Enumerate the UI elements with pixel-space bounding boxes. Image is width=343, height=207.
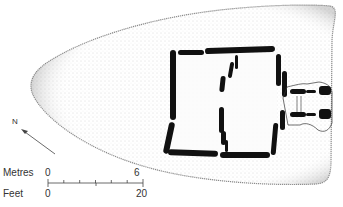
metres-start: 0 <box>45 168 51 178</box>
scale-bar <box>48 179 143 187</box>
feet-label: Feet <box>3 189 23 199</box>
stone-east-upper <box>276 54 281 86</box>
feet-end: 20 <box>136 189 147 199</box>
site-plan <box>0 0 343 207</box>
feet-start: 0 <box>45 189 51 199</box>
north-label: N <box>12 118 18 126</box>
stone-north-1 <box>178 50 204 55</box>
metres-label: Metres <box>3 168 34 178</box>
stone-east-portal-s <box>280 110 285 130</box>
mound <box>31 5 335 184</box>
stone-west-upper <box>170 50 176 120</box>
stone-cross-6 <box>225 140 228 152</box>
stone-cross-1 <box>235 55 238 69</box>
north-arrow-icon <box>21 129 55 154</box>
stone-south-2 <box>220 152 270 158</box>
metres-end: 6 <box>134 168 140 178</box>
stone-cross-4 <box>219 107 224 133</box>
